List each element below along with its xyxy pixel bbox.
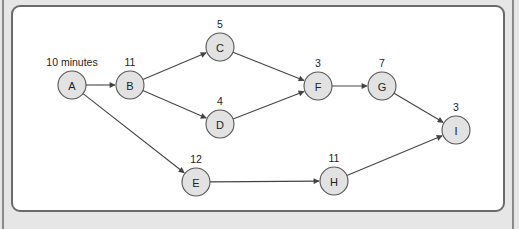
node-h: H11 xyxy=(320,152,348,195)
node-label: A xyxy=(68,80,76,92)
edge-c-f xyxy=(233,52,304,80)
duration-label: 3 xyxy=(453,101,459,113)
node-e: E12 xyxy=(182,153,210,196)
duration-label: 7 xyxy=(379,57,385,69)
node-c: C5 xyxy=(206,18,234,61)
node-label: E xyxy=(192,177,199,189)
node-g: G7 xyxy=(368,57,396,100)
node-label: C xyxy=(216,42,224,54)
edge-e-h xyxy=(210,181,319,182)
node-b: B11 xyxy=(116,56,144,99)
duration-label: 5 xyxy=(217,18,223,30)
edge-b-d xyxy=(143,91,206,118)
edge-b-c xyxy=(143,53,206,80)
node-f: F3 xyxy=(304,57,332,100)
duration-label: 11 xyxy=(329,152,340,164)
node-d: D4 xyxy=(206,95,234,138)
duration-label: 12 xyxy=(190,153,202,165)
node-a: A10 minutes xyxy=(46,56,97,99)
node-label: B xyxy=(126,80,133,92)
edge-g-i xyxy=(394,93,443,122)
edge-h-i xyxy=(347,136,442,176)
node-label: F xyxy=(315,81,322,93)
duration-label: 3 xyxy=(315,57,321,69)
network-diagram: A10 minutesB11C5D4E12F3G7H11I3 xyxy=(0,0,519,229)
edge-a-e xyxy=(83,94,184,173)
node-label: D xyxy=(216,119,224,131)
node-label: G xyxy=(378,81,387,93)
duration-label: 11 xyxy=(125,56,136,68)
node-i: I3 xyxy=(442,101,470,144)
duration-label: 10 minutes xyxy=(46,56,97,68)
node-label: I xyxy=(454,125,457,137)
node-label: H xyxy=(330,176,338,188)
duration-label: 4 xyxy=(217,95,223,107)
edge-d-f xyxy=(233,91,304,119)
